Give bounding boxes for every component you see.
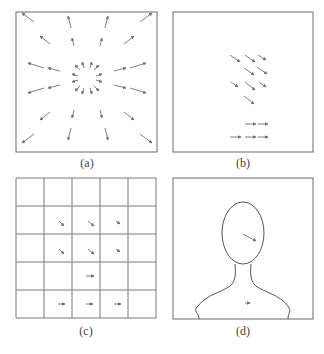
flow-arrow [105,128,108,140]
flow-arrow [40,36,50,44]
body-outline [196,264,290,319]
flow-arrow [130,63,146,68]
flow-arrow [90,62,92,68]
flow-arrow [231,82,238,87]
flow-arrow [258,55,266,60]
panel-d-label: (d) [236,324,250,338]
flow-arrow [243,234,256,241]
flow-arrow [68,128,71,140]
panel-b-label: (b) [236,156,250,170]
flow-arrow [59,221,64,226]
panel-a [16,12,157,152]
flow-arrow [68,16,71,28]
panel-a-flow-arrows [22,13,152,143]
flow-arrow [140,134,152,143]
flow-arrow [82,62,84,68]
flow-arrow [259,82,266,87]
flow-arrow [116,221,120,224]
flow-arrow [22,13,34,22]
flow-arrow [72,80,78,82]
flow-arrow [72,110,74,118]
flow-arrow [114,85,126,88]
flow-arrow [244,96,254,104]
flow-arrow [114,68,126,71]
panel-b [173,12,313,152]
flow-arrow [72,74,78,76]
flow-arrow [124,36,134,44]
flow-arrow [96,74,102,76]
flow-arrow [116,249,120,252]
flow-arrow [22,134,34,143]
panel-d-frame [173,178,313,319]
panel-d [173,178,313,319]
panel-c [16,178,156,318]
flow-arrow [244,68,254,75]
flow-arrow [140,13,152,22]
flow-arrow [230,55,240,62]
flow-arrow [100,38,102,46]
flow-arrow [94,86,99,91]
flow-arrow [88,249,94,254]
flow-arrow [257,67,267,74]
panel-d-motion-arrows [243,234,256,303]
panel-b-flow-arrows [230,55,268,137]
figure-canvas: (a) (b) (c) (d) [0,0,324,354]
flow-arrow [130,88,146,93]
flow-arrow [100,110,102,118]
panel-c-grid [16,178,156,318]
panel-a-frame [16,12,157,152]
flow-arrow [75,65,80,70]
flow-arrow [90,88,92,94]
flow-arrow [82,88,84,94]
flow-arrow [28,88,44,93]
head-outline [222,202,264,264]
flow-arrow [105,16,108,28]
flow-arrow [124,112,134,120]
flow-arrow [72,38,74,46]
panel-b-frame [173,12,313,152]
flow-arrow [48,68,60,71]
flow-arrow [48,85,60,88]
flow-arrow [245,55,255,62]
flow-arrow [94,65,99,70]
flow-arrow [75,86,80,91]
flow-arrow [245,82,255,90]
panel-c-label: (c) [79,324,92,338]
flow-arrow [88,221,94,226]
flow-arrow [59,249,64,254]
panel-a-label: (a) [80,156,93,170]
flow-arrow [96,80,102,82]
flow-arrow [40,112,50,120]
flow-arrow [28,63,44,68]
